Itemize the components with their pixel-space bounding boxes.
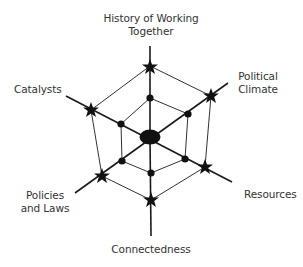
label-catalysts: Catalysts [14, 83, 62, 96]
dot-catalysts [117, 120, 124, 127]
dot-political [184, 110, 191, 117]
label-history: History of Working Together [98, 12, 204, 38]
center-node [140, 130, 161, 145]
label-connectedness: Connectedness [110, 243, 192, 256]
dot-resources [181, 155, 188, 162]
dot-connectedness [147, 169, 154, 176]
dot-history [146, 94, 153, 101]
spider-diagram [0, 0, 303, 267]
star-icon-catalysts [83, 102, 99, 117]
label-resources: Resources [244, 188, 297, 201]
label-political: Political Climate [232, 70, 284, 96]
label-policies: Policies and Laws [20, 189, 70, 215]
dot-policies [118, 157, 125, 164]
axis-connectedness [150, 137, 151, 236]
